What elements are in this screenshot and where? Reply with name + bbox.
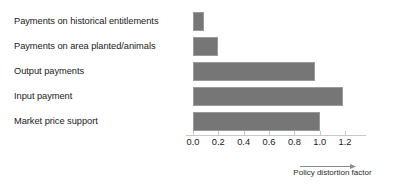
- bar: [193, 12, 204, 31]
- category-label: Output payments: [14, 62, 186, 81]
- bar: [193, 87, 343, 106]
- bar: [193, 37, 218, 56]
- bar-chart: Payments on historical entitlementsPayme…: [0, 0, 404, 185]
- x-axis-tick-label: 1.2: [330, 137, 360, 147]
- x-axis-tick: [218, 131, 219, 136]
- category-label: Payments on area planted/animals: [14, 37, 186, 56]
- x-axis-tick: [294, 131, 295, 136]
- category-label: Payments on historical entitlements: [14, 12, 186, 31]
- bar: [193, 112, 320, 131]
- plot-area: [193, 0, 404, 131]
- x-axis-line: [186, 135, 366, 136]
- category-axis-labels: Payments on historical entitlementsPayme…: [0, 0, 190, 131]
- category-label: Market price support: [14, 112, 186, 131]
- x-axis-tick: [345, 131, 346, 136]
- x-axis-tick: [269, 131, 270, 136]
- bar: [193, 62, 315, 81]
- x-axis-tick: [244, 131, 245, 136]
- x-axis-tick: [320, 131, 321, 136]
- x-axis-caption: Policy distortion factor: [270, 168, 395, 177]
- category-label: Input payment: [14, 87, 186, 106]
- x-axis-tick: [193, 131, 194, 136]
